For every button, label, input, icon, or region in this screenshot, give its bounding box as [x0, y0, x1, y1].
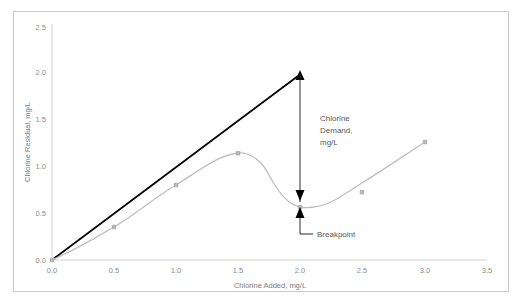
- chlorine-demand-down-arrowhead: [296, 190, 305, 201]
- data-point-marker-1: [112, 225, 116, 229]
- y-tick-label-2: 1.0: [36, 162, 46, 171]
- x-tick-label-5: 2.5: [357, 266, 367, 275]
- data-point-marker-6: [423, 140, 427, 144]
- y-axis-title: Chlorine Residual, mg/L: [23, 102, 32, 182]
- x-tick-label-4: 2.0: [295, 266, 305, 275]
- y-tick-label-0: 0.0: [36, 256, 46, 265]
- data-point-marker-2: [174, 183, 178, 187]
- x-tick-label-2: 1.0: [171, 266, 181, 275]
- breakpoint-up-arrowhead: [296, 207, 305, 218]
- breakpoint-chlorination-chart: 0.0 0.5 1.0 1.5 2.0 2.5 0.0 0.5 1.0 1.5 …: [0, 0, 522, 306]
- y-tick-label-5: 2.5: [36, 23, 46, 32]
- chlorine-demand-label-line2: Demand,: [320, 126, 352, 135]
- y-tick-label-1: 0.5: [36, 209, 46, 218]
- x-tick-label-1: 0.5: [109, 266, 119, 275]
- chlorine-demand-label-line3: mg/L: [320, 138, 338, 147]
- applied-chlorine-line: [52, 76, 298, 260]
- x-tick-label-3: 1.5: [233, 266, 243, 275]
- chlorine-demand-label-line1: Chlorine: [320, 114, 350, 123]
- y-tick-label-3: 1.5: [36, 115, 46, 124]
- x-tick-label-6: 3.0: [420, 266, 430, 275]
- data-point-marker-5: [360, 190, 364, 194]
- chart-figure: 0.0 0.5 1.0 1.5 2.0 2.5 0.0 0.5 1.0 1.5 …: [0, 0, 522, 306]
- y-tick-label-4: 2.0: [36, 68, 46, 77]
- x-axis-title: Chlorine Added, mg/L: [234, 281, 306, 290]
- data-point-marker-3: [236, 151, 240, 155]
- data-point-marker-0: [50, 258, 54, 262]
- chlorine-residual-curve: [52, 142, 425, 260]
- x-tick-label-7: 3.5: [482, 266, 492, 275]
- breakpoint-label: Breakpoint: [317, 230, 356, 239]
- x-tick-label-0: 0.0: [47, 266, 57, 275]
